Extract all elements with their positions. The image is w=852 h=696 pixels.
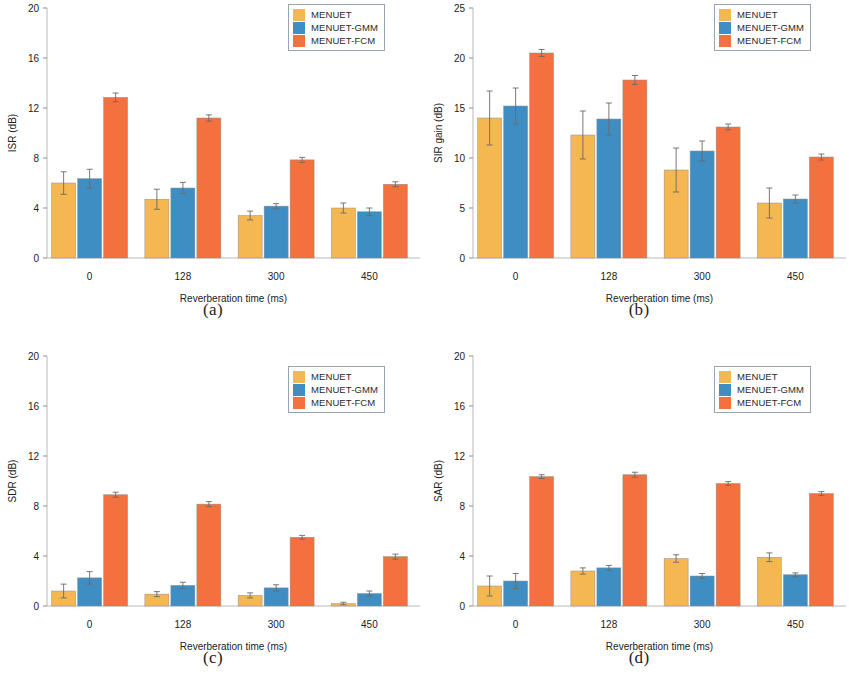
legend-label-menuet-fcm: MENUET-FCM	[311, 35, 375, 46]
legend-label-menuet-fcm: MENUET-FCM	[737, 35, 801, 46]
x-tick-label: 0	[513, 619, 519, 630]
legend-label-menuet: MENUET	[737, 371, 778, 382]
bar	[783, 575, 807, 606]
bar	[809, 157, 833, 258]
y-tick-label: 12	[454, 451, 466, 462]
x-tick-label: 0	[87, 271, 93, 282]
panel-d-caption: (d)	[426, 648, 852, 668]
x-tick-label: 128	[175, 271, 192, 282]
legend-swatch-menuet	[719, 9, 731, 21]
y-tick-label: 25	[454, 3, 466, 14]
legend-swatch-menuet-fcm	[293, 397, 305, 409]
bar	[623, 80, 647, 258]
panel-d-legend: MENUET MENUET-GMM MENUET-FCM	[714, 366, 811, 413]
legend-item: MENUET-FCM	[719, 396, 804, 409]
x-tick-label: 300	[268, 271, 285, 282]
y-tick-label: 4	[33, 203, 39, 214]
y-tick-label: 5	[459, 203, 465, 214]
bar	[716, 127, 740, 258]
y-tick-label: 20	[28, 3, 40, 14]
x-tick-label: 128	[601, 271, 618, 282]
bar	[623, 475, 647, 606]
y-tick-label: 16	[28, 401, 40, 412]
panel-a-plot: 048121620ISR (dB)0128300450Reverberation…	[0, 0, 426, 348]
legend-label-menuet-gmm: MENUET-GMM	[737, 384, 804, 395]
legend-item: MENUET	[719, 370, 804, 383]
y-tick-label: 10	[454, 153, 466, 164]
legend-swatch-menuet-gmm	[293, 384, 305, 396]
y-axis-title: SIR gain (dB)	[433, 103, 444, 163]
bar	[690, 576, 714, 606]
legend-item: MENUET	[293, 370, 378, 383]
bar	[197, 118, 221, 258]
y-axis-title: SDR (dB)	[7, 460, 18, 503]
legend-item: MENUET	[719, 8, 804, 21]
y-tick-label: 12	[28, 103, 40, 114]
figure-grid: 048121620ISR (dB)0128300450Reverberation…	[0, 0, 852, 696]
y-tick-label: 8	[33, 153, 39, 164]
bar	[716, 484, 740, 607]
y-tick-label: 16	[454, 401, 466, 412]
bar	[357, 212, 381, 258]
legend-label-menuet: MENUET	[311, 371, 352, 382]
x-tick-label: 450	[361, 619, 378, 630]
x-tick-label: 0	[87, 619, 93, 630]
bar	[197, 504, 221, 606]
bar	[530, 477, 554, 606]
bar	[383, 184, 407, 258]
legend-label-menuet-fcm: MENUET-FCM	[311, 397, 375, 408]
y-tick-label: 4	[459, 551, 465, 562]
legend-swatch-menuet-fcm	[293, 35, 305, 47]
panel-d: 048121620SAR (dB)0128300450Reverberation…	[426, 348, 852, 696]
panel-b-plot: 0510152025SIR gain (dB)0128300450Reverbe…	[426, 0, 852, 348]
x-tick-label: 450	[361, 271, 378, 282]
legend-item: MENUET-GMM	[719, 21, 804, 34]
legend-item: MENUET-FCM	[719, 34, 804, 47]
legend-item: MENUET	[293, 8, 378, 21]
bar	[290, 537, 314, 606]
legend-label-menuet: MENUET	[311, 9, 352, 20]
legend-label-menuet-gmm: MENUET-GMM	[311, 384, 378, 395]
panel-a: 048121620ISR (dB)0128300450Reverberation…	[0, 0, 426, 348]
legend-label-menuet-gmm: MENUET-GMM	[737, 22, 804, 33]
x-tick-label: 450	[787, 619, 804, 630]
y-axis-title: ISR (dB)	[7, 114, 18, 152]
y-tick-label: 0	[459, 601, 465, 612]
bar	[104, 495, 128, 606]
legend-item: MENUET-GMM	[293, 383, 378, 396]
y-tick-label: 0	[459, 253, 465, 264]
y-tick-label: 12	[28, 451, 40, 462]
legend-item: MENUET-GMM	[719, 383, 804, 396]
panel-c: 048121620SDR (dB)0128300450Reverberation…	[0, 348, 426, 696]
x-tick-label: 0	[513, 271, 519, 282]
y-tick-label: 0	[33, 601, 39, 612]
legend-swatch-menuet	[293, 371, 305, 383]
panel-b-caption: (b)	[426, 300, 852, 320]
legend-swatch-menuet-fcm	[719, 35, 731, 47]
legend-item: MENUET-FCM	[293, 34, 378, 47]
panel-b-legend: MENUET MENUET-GMM MENUET-FCM	[714, 4, 811, 51]
y-tick-label: 8	[459, 501, 465, 512]
y-tick-label: 15	[454, 103, 466, 114]
y-tick-label: 20	[454, 53, 466, 64]
bar	[690, 151, 714, 258]
legend-swatch-menuet-gmm	[719, 384, 731, 396]
legend-swatch-menuet-gmm	[719, 22, 731, 34]
legend-item: MENUET-GMM	[293, 21, 378, 34]
legend-swatch-menuet-fcm	[719, 397, 731, 409]
panel-c-legend: MENUET MENUET-GMM MENUET-FCM	[288, 366, 385, 413]
y-tick-label: 16	[28, 53, 40, 64]
bar	[504, 106, 528, 258]
legend-swatch-menuet-gmm	[293, 22, 305, 34]
x-tick-label: 450	[787, 271, 804, 282]
bar	[530, 53, 554, 258]
legend-item: MENUET-FCM	[293, 396, 378, 409]
x-tick-label: 300	[694, 619, 711, 630]
bar	[171, 188, 195, 258]
bar	[290, 160, 314, 258]
y-axis-title: SAR (dB)	[433, 460, 444, 502]
bar	[664, 559, 688, 607]
y-tick-label: 4	[33, 551, 39, 562]
bar	[571, 571, 595, 606]
bar	[597, 119, 621, 258]
